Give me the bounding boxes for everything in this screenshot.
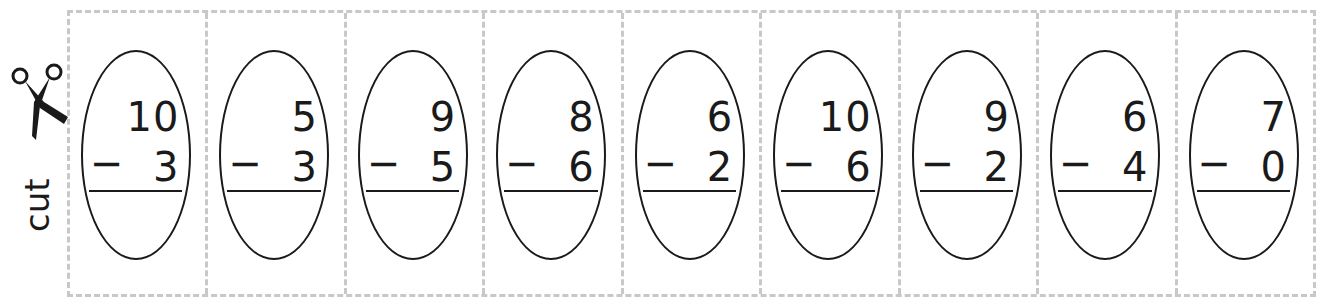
subtrahend: 2 — [984, 147, 1010, 187]
minuend: 6 — [1122, 97, 1148, 137]
flashcard: 10 − 6 — [762, 13, 900, 294]
subtrahend: 3 — [291, 147, 317, 187]
minuend: 6 — [707, 97, 733, 137]
minuend: 5 — [291, 97, 317, 137]
minus-sign: − — [644, 143, 678, 183]
minus-sign: − — [1059, 143, 1093, 183]
answer-line — [227, 190, 320, 192]
flashcard: 9 − 5 — [347, 13, 485, 294]
subtrahend: 4 — [1122, 147, 1148, 187]
answer-line — [781, 190, 874, 192]
subtrahend: 5 — [430, 147, 456, 187]
flashcard: 8 − 6 — [485, 13, 623, 294]
minuend: 9 — [984, 97, 1010, 137]
minus-sign: − — [367, 143, 401, 183]
minus-sign: − — [505, 143, 539, 183]
subtrahend: 6 — [568, 147, 594, 187]
answer-line — [920, 190, 1013, 192]
subtrahend: 0 — [1260, 147, 1286, 187]
minus-sign: − — [921, 143, 955, 183]
minuend: 10 — [127, 97, 180, 137]
flashcard: 7 − 0 — [1178, 13, 1313, 294]
cut-marker: cut — [6, 62, 68, 212]
scissors-icon — [6, 62, 68, 142]
minus-sign: − — [228, 143, 262, 183]
subtrahend: 3 — [153, 147, 179, 187]
cut-label: cut — [20, 178, 54, 232]
minuend: 8 — [568, 97, 594, 137]
flashcard: 5 − 3 — [208, 13, 346, 294]
minus-sign: − — [782, 143, 816, 183]
flashcard-strip: 10 − 3 5 − 3 9 − 5 8 − 6 6 − 2 10 − 6 — [67, 10, 1316, 297]
subtrahend: 2 — [707, 147, 733, 187]
flashcard: 9 − 2 — [901, 13, 1039, 294]
answer-line — [366, 190, 459, 192]
answer-line — [1197, 190, 1290, 192]
flashcard: 6 − 4 — [1039, 13, 1177, 294]
answer-line — [89, 190, 182, 192]
answer-line — [1058, 190, 1151, 192]
flashcard: 10 − 3 — [70, 13, 208, 294]
minus-sign: − — [1198, 143, 1232, 183]
minuend: 10 — [819, 97, 872, 137]
answer-line — [643, 190, 736, 192]
answer-line — [504, 190, 597, 192]
subtrahend: 6 — [845, 147, 871, 187]
minus-sign: − — [90, 143, 124, 183]
flashcard: 6 − 2 — [624, 13, 762, 294]
minuend: 9 — [430, 97, 456, 137]
minuend: 7 — [1260, 97, 1286, 137]
